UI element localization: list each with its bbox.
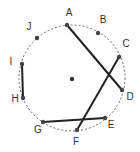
point-i [20,62,24,66]
label-g: G [34,124,42,135]
label-h: H [11,93,18,104]
center-point [70,77,74,81]
point-d [120,88,124,92]
point-h [21,96,25,100]
label-d: D [126,91,133,102]
chord-i-h [22,64,23,98]
label-f: F [73,136,79,147]
label-c: C [122,38,129,49]
label-i: I [10,56,13,67]
circle-chord-diagram: ABCDEFGHIJ [0,0,140,152]
label-a: A [66,7,73,18]
point-e [103,116,107,120]
point-b [96,31,100,35]
chord-g-e [43,118,105,122]
label-b: B [100,14,107,25]
point-a [65,23,69,27]
chord-a-d [67,25,122,90]
point-j [35,36,39,40]
point-c [117,55,121,59]
label-e: E [108,119,115,130]
point-f [75,128,79,132]
label-j: J [27,21,32,32]
